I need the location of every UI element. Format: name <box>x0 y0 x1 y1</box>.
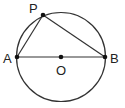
segment-pb <box>43 15 105 57</box>
segment-ap <box>17 15 43 57</box>
circle-diagram: P A O B <box>0 0 125 108</box>
point-a <box>15 55 20 60</box>
point-b <box>103 55 108 60</box>
label-p: P <box>29 1 38 16</box>
point-o <box>59 55 64 60</box>
label-o: O <box>56 63 66 78</box>
point-p <box>41 13 46 18</box>
label-b: B <box>110 51 119 66</box>
label-a: A <box>3 51 12 66</box>
